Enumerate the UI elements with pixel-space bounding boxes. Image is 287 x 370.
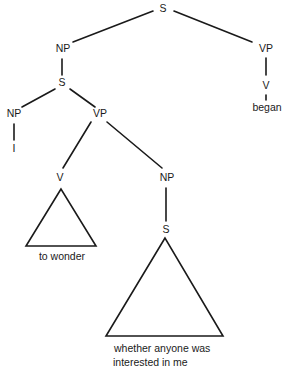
node-main-vp: VP — [259, 42, 273, 54]
edge-vp-np — [107, 122, 162, 168]
node-object-s: S — [162, 223, 169, 235]
edge-s-vp-inner — [70, 89, 95, 107]
triangle-clause — [106, 238, 223, 336]
node-main-v: V — [262, 79, 269, 91]
node-subject-np: NP — [56, 42, 71, 54]
node-pronoun-i: I — [13, 142, 16, 154]
triangle-to-wonder — [26, 189, 96, 246]
syntax-tree: S NP VP V began S NP I VP V to wonder NP… — [0, 0, 287, 370]
node-embedded-s: S — [58, 76, 65, 88]
edge-s-vp — [174, 11, 252, 42]
edge-s-np-left — [22, 89, 55, 107]
node-object-np: NP — [160, 171, 175, 183]
edge-s-np — [73, 11, 153, 42]
edge-vp-v — [63, 122, 91, 168]
node-embedded-vp: VP — [93, 107, 107, 119]
clause-line-1: whether anyone was — [113, 342, 210, 354]
node-to-wonder: to wonder — [39, 250, 86, 262]
clause-line-2: interested in me — [113, 356, 188, 368]
node-root-s: S — [159, 2, 166, 14]
node-embedded-v: V — [56, 171, 63, 183]
node-embedded-np: NP — [7, 107, 22, 119]
node-began: began — [252, 101, 281, 113]
